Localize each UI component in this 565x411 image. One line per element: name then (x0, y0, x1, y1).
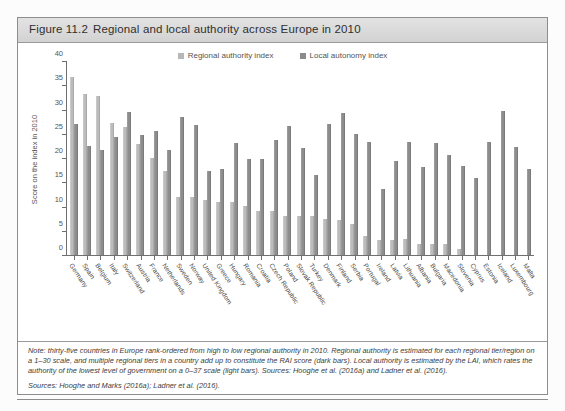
legend-swatch-icon-rai (178, 53, 184, 59)
bar-local-autonomy-index[interactable] (527, 169, 531, 255)
bar-group[interactable] (214, 61, 227, 255)
bar-local-autonomy-index[interactable] (287, 126, 291, 255)
bar-group[interactable] (80, 61, 93, 255)
bar-group[interactable] (307, 61, 320, 255)
bar-group[interactable] (134, 61, 147, 255)
bar-local-autonomy-index[interactable] (114, 137, 118, 255)
bar-group[interactable] (147, 61, 160, 255)
bar-group[interactable] (361, 61, 374, 255)
bar-group[interactable] (281, 61, 294, 255)
bar-local-autonomy-index[interactable] (140, 135, 144, 255)
bar-group[interactable] (254, 61, 267, 255)
bar-group[interactable] (94, 61, 107, 255)
bar-local-autonomy-index[interactable] (194, 125, 198, 255)
bar-local-autonomy-index[interactable] (327, 124, 331, 255)
x-axis-label-cell: Iceland (495, 261, 508, 323)
x-axis-label-cell: Cyprus (468, 261, 481, 323)
bar-group[interactable] (401, 61, 414, 255)
bar-group[interactable] (414, 61, 427, 255)
bar-local-autonomy-index[interactable] (381, 189, 385, 255)
bar-group[interactable] (507, 61, 520, 255)
bar-local-autonomy-index[interactable] (247, 159, 251, 255)
note-text: Note: thirty-five countries in Europe ra… (28, 346, 538, 377)
bar-group[interactable] (160, 61, 173, 255)
y-tick-mark (62, 110, 66, 111)
bar-local-autonomy-index[interactable] (260, 159, 264, 256)
bar-local-autonomy-index[interactable] (100, 150, 104, 255)
bar-local-autonomy-index[interactable] (207, 171, 211, 255)
bar-group[interactable] (67, 61, 80, 255)
x-tick-label: Italy (108, 262, 121, 276)
x-axis-label-cell: Netherlands (161, 261, 174, 323)
bar-local-autonomy-index[interactable] (474, 178, 478, 255)
bar-group[interactable] (494, 61, 507, 255)
bar-group[interactable] (467, 61, 480, 255)
y-tick-mark (62, 158, 66, 159)
bar-local-autonomy-index[interactable] (87, 146, 91, 255)
x-axis-label-cell: Macedonia (442, 261, 455, 323)
bar-group[interactable] (267, 61, 280, 255)
y-tick-mark (62, 85, 66, 86)
bar-local-autonomy-index[interactable] (180, 117, 184, 255)
bar-local-autonomy-index[interactable] (354, 134, 358, 255)
bar-local-autonomy-index[interactable] (154, 131, 158, 255)
bar-local-autonomy-index[interactable] (127, 112, 131, 255)
bar-group[interactable] (374, 61, 387, 255)
x-axis-label-cell: Malta (522, 261, 535, 323)
y-tick-label: 15 (55, 170, 63, 179)
bar-local-autonomy-index[interactable] (514, 147, 518, 255)
x-axis-label-cell: Switzerland (121, 261, 134, 323)
x-axis-label-cell: Greece (214, 261, 227, 323)
bar-local-autonomy-index[interactable] (487, 142, 491, 255)
bar-group[interactable] (227, 61, 240, 255)
bar-group[interactable] (294, 61, 307, 255)
bar-group[interactable] (454, 61, 467, 255)
x-axis-label-cell: Spain (80, 261, 93, 323)
bar-group[interactable] (521, 61, 534, 255)
y-tick-mark (62, 255, 66, 256)
bar-group[interactable] (427, 61, 440, 255)
bar-group[interactable] (347, 61, 360, 255)
bar-local-autonomy-index[interactable] (421, 167, 425, 255)
bar-group[interactable] (174, 61, 187, 255)
bar-local-autonomy-index[interactable] (274, 140, 278, 255)
x-axis-label-cell: Lithuania (401, 261, 414, 323)
bar-group[interactable] (187, 61, 200, 255)
y-tick-mark (62, 134, 66, 135)
sources-text: Sources: Hooghe and Marks (2016a); Ladne… (28, 381, 538, 391)
bar-local-autonomy-index[interactable] (434, 143, 438, 255)
x-axis-label-cell: Czech Republic (268, 261, 281, 323)
bar-local-autonomy-index[interactable] (220, 169, 224, 255)
bar-local-autonomy-index[interactable] (407, 142, 411, 255)
bar-local-autonomy-index[interactable] (501, 111, 505, 255)
bar-group[interactable] (441, 61, 454, 255)
bar-local-autonomy-index[interactable] (461, 166, 465, 255)
bar-group[interactable] (200, 61, 213, 255)
bar-local-autonomy-index[interactable] (314, 175, 318, 256)
bar-local-autonomy-index[interactable] (301, 148, 305, 255)
bar-local-autonomy-index[interactable] (341, 113, 345, 255)
bar-group[interactable] (481, 61, 494, 255)
y-tick-mark (62, 61, 66, 62)
x-axis-label-cell: Croatia (254, 261, 267, 323)
bar-local-autonomy-index[interactable] (167, 150, 171, 255)
y-tick-label: 20 (55, 146, 63, 155)
bar-local-autonomy-index[interactable] (367, 142, 371, 255)
x-axis-label-cell: Slovenia (455, 261, 468, 323)
bar-local-autonomy-index[interactable] (234, 143, 238, 255)
bar-local-autonomy-index[interactable] (447, 155, 451, 255)
x-axis-label-cell: Italy (107, 261, 120, 323)
x-axis-labels: GermanySpainBelgiumItalySwitzerlandAustr… (67, 261, 535, 323)
x-axis-label-cell: Turkey (308, 261, 321, 323)
bar-group[interactable] (387, 61, 400, 255)
bar-group[interactable] (321, 61, 334, 255)
x-axis-label-cell: Serbia (348, 261, 361, 323)
page-bottom-rule (17, 399, 548, 400)
bar-local-autonomy-index[interactable] (394, 161, 398, 255)
bar-group[interactable] (334, 61, 347, 255)
bar-local-autonomy-index[interactable] (74, 124, 78, 255)
bar-group[interactable] (107, 61, 120, 255)
bar-group[interactable] (120, 61, 133, 255)
x-axis-label-cell: Sweden (174, 261, 187, 323)
bar-group[interactable] (240, 61, 253, 255)
